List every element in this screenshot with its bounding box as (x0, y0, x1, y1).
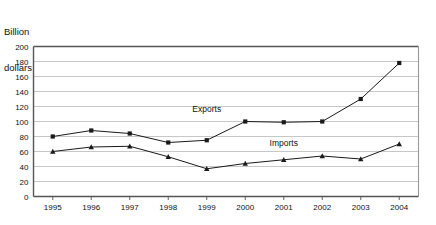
x-axis-tick-label: 2004 (390, 203, 408, 212)
x-axis-tick-label: 2001 (275, 203, 293, 212)
data-point-marker-square (320, 119, 324, 123)
data-point-marker-square (282, 120, 286, 124)
y-axis-tick-label: 20 (20, 178, 29, 187)
data-point-marker-square (89, 128, 93, 132)
x-axis-tick-label: 1995 (44, 203, 62, 212)
data-point-marker-square (166, 140, 170, 144)
y-axis-tick-label: 100 (15, 118, 29, 127)
data-point-marker-square (359, 97, 363, 101)
axis-title-line-1: Billion (4, 26, 32, 38)
x-axis-tick-label: 2002 (313, 203, 331, 212)
series-annotation-label: Exports (192, 104, 221, 114)
axis-title-line-2: dollars (4, 62, 32, 74)
x-axis-tick-label: 2000 (236, 203, 254, 212)
data-point-marker-square (205, 138, 209, 142)
chart-axis-title: Billion dollars (4, 2, 32, 98)
x-axis-tick-label: 1999 (198, 203, 216, 212)
series-annotation-label: Imports (270, 138, 298, 148)
x-axis-tick-label: 1998 (159, 203, 177, 212)
data-series-group (50, 61, 402, 171)
y-axis-tick-label: 80 (20, 133, 29, 142)
line-chart-plot: 020406080100120140160180200 199519961997… (0, 0, 436, 225)
series-line-exports (53, 63, 400, 143)
data-point-marker-square (397, 61, 401, 65)
y-axis-tick-label: 60 (20, 148, 29, 157)
chart-container: Billion dollars 020406080100120140160180… (0, 0, 436, 225)
data-point-marker-square (128, 131, 132, 135)
series-line-imports (53, 144, 400, 169)
y-axis-tick-label: 0 (24, 193, 29, 202)
y-axis-tick-label: 120 (15, 103, 29, 112)
y-axis-tick-label: 40 (20, 163, 29, 172)
x-axis-tick-label: 1996 (82, 203, 100, 212)
data-point-marker-triangle (397, 141, 402, 146)
x-axis-tick-label: 1997 (121, 203, 139, 212)
data-point-marker-square (243, 119, 247, 123)
x-axis-tick-labels: 1995199619971998199920002001200220032004 (44, 197, 409, 212)
x-axis-tick-label: 2003 (352, 203, 370, 212)
data-point-marker-square (51, 134, 55, 138)
